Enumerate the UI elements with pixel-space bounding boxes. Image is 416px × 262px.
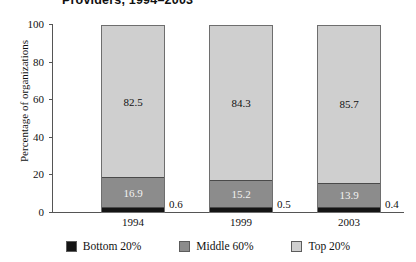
bar-group-1999: 84.3 15.2 0.5 [209, 24, 273, 213]
legend-swatch-icon [291, 241, 302, 252]
y-tick-mark-100 [49, 24, 53, 25]
y-tick-label-80: 80 [0, 56, 44, 68]
legend-swatch-icon [179, 241, 190, 252]
bar-group-1994: 82.5 16.9 0.6 [101, 24, 165, 213]
chart-title: Providers, 1994–2003 [62, 0, 193, 7]
bar-segment-middle-60[interactable]: 15.2 [210, 180, 272, 208]
y-tick-label-60: 60 [0, 93, 44, 105]
x-tick-label-2003: 2003 [304, 216, 394, 228]
bar-label-top-20: 84.3 [231, 97, 250, 109]
x-tick-label-1994: 1994 [88, 216, 178, 228]
y-tick-label-40: 40 [0, 131, 44, 143]
stacked-bar[interactable]: 82.5 16.9 [101, 25, 165, 213]
stacked-bar[interactable]: 84.3 15.2 [209, 25, 273, 213]
y-axis-line [52, 24, 53, 213]
y-tick-mark-60 [49, 99, 53, 100]
y-tick-label-20: 20 [0, 168, 44, 180]
bar-label-middle-60: 15.2 [231, 188, 250, 200]
legend-label: Top 20% [308, 240, 350, 252]
bar-segment-middle-60[interactable]: 13.9 [318, 183, 380, 208]
legend-label: Bottom 20% [83, 240, 141, 252]
legend-swatch-icon [66, 241, 77, 252]
chart-legend: Bottom 20% Middle 60% Top 20% [0, 240, 416, 252]
y-tick-mark-20 [49, 174, 53, 175]
bar-label-bottom-20: 0.4 [385, 198, 399, 210]
legend-item-middle-60[interactable]: Middle 60% [179, 240, 253, 252]
bar-label-bottom-20: 0.6 [169, 198, 183, 210]
bar-label-top-20: 82.5 [123, 96, 142, 108]
bar-segment-top-20[interactable]: 85.7 [318, 26, 380, 183]
bar-segment-middle-60[interactable]: 16.9 [102, 177, 164, 208]
legend-item-top-20[interactable]: Top 20% [291, 240, 350, 252]
bar-segment-top-20[interactable]: 84.3 [210, 26, 272, 180]
bar-segment-top-20[interactable]: 82.5 [102, 26, 164, 177]
y-tick-label-100: 100 [0, 18, 44, 30]
bar-segment-bottom-20[interactable] [210, 208, 272, 212]
legend-item-bottom-20[interactable]: Bottom 20% [66, 240, 141, 252]
y-tick-mark-80 [49, 62, 53, 63]
bar-segment-bottom-20[interactable] [318, 208, 380, 212]
bar-label-top-20: 85.7 [339, 98, 358, 110]
bar-label-middle-60: 16.9 [123, 187, 142, 199]
bar-group-2003: 85.7 13.9 0.4 [317, 24, 381, 213]
stacked-bar[interactable]: 85.7 13.9 [317, 25, 381, 213]
y-tick-mark-0 [49, 212, 53, 213]
y-tick-label-0: 0 [0, 206, 44, 218]
x-tick-label-1999: 1999 [196, 216, 286, 228]
bar-label-bottom-20: 0.5 [277, 198, 291, 210]
bar-label-middle-60: 13.9 [339, 189, 358, 201]
y-tick-mark-40 [49, 137, 53, 138]
legend-label: Middle 60% [196, 240, 253, 252]
bar-segment-bottom-20[interactable] [102, 208, 164, 212]
